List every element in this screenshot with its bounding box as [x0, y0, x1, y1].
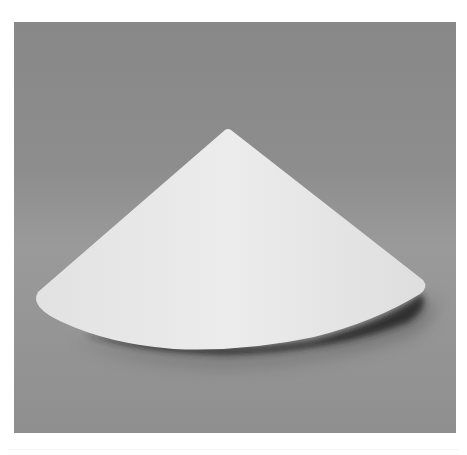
- cone-illustration: [14, 22, 456, 433]
- cone-body: [36, 129, 425, 350]
- cone-photo: [14, 22, 456, 433]
- divider-line: [8, 449, 458, 450]
